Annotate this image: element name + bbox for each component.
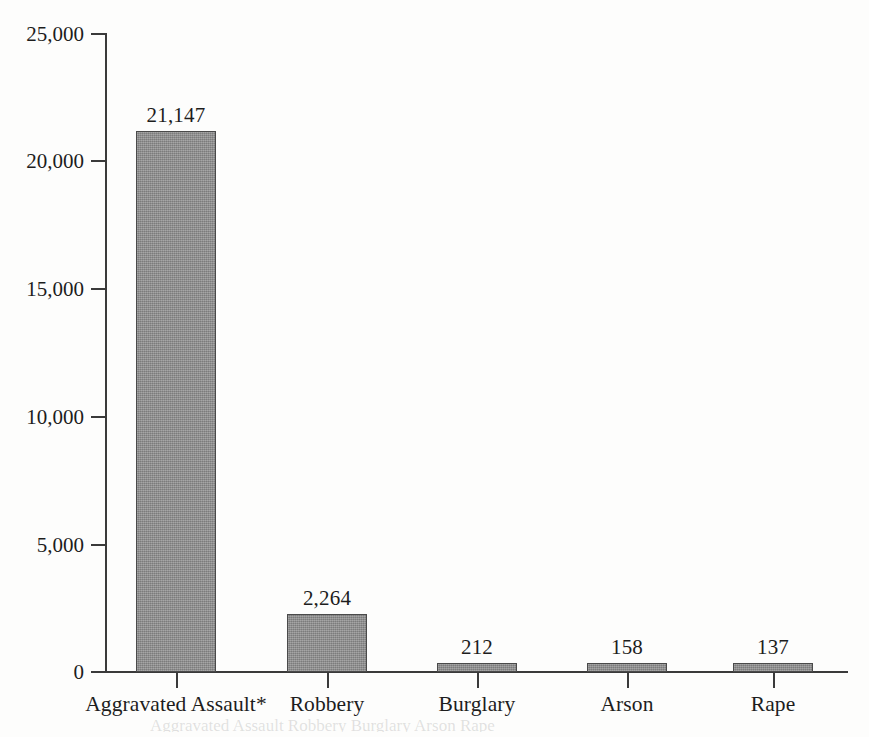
x-axis-tick-arson bbox=[627, 673, 629, 688]
x-axis-tick-burglary bbox=[477, 673, 479, 688]
x-axis-label-burglary: Burglary bbox=[407, 692, 547, 717]
bar-value-arson: 158 bbox=[567, 635, 687, 660]
y-axis-tick-0 bbox=[91, 671, 105, 673]
bar-value-burglary: 212 bbox=[417, 635, 537, 660]
y-axis-tick-label-25000: 25,000 bbox=[0, 22, 84, 47]
y-axis-tick-label-20000: 20,000 bbox=[0, 149, 84, 174]
bar-value-robbery: 2,264 bbox=[267, 586, 387, 611]
bar-arson bbox=[587, 663, 667, 672]
plot-area: 25,000 20,000 15,000 10,000 5,000 0 21,1… bbox=[0, 0, 869, 737]
y-axis-tick-5000 bbox=[91, 544, 105, 546]
x-axis-label-arson: Arson bbox=[557, 692, 697, 717]
y-axis-tick-label-15000: 15,000 bbox=[0, 277, 84, 302]
bar-value-aggravated-assault: 21,147 bbox=[116, 103, 236, 128]
x-axis-tick-robbery bbox=[327, 673, 329, 688]
y-axis-tick-20000 bbox=[91, 160, 105, 162]
y-axis-line bbox=[105, 33, 107, 673]
bar-aggravated-assault bbox=[136, 131, 216, 672]
bar-value-rape: 137 bbox=[713, 635, 833, 660]
bar-rape bbox=[733, 663, 813, 672]
x-axis-label-robbery: Robbery bbox=[257, 692, 397, 717]
y-axis-tick-15000 bbox=[91, 288, 105, 290]
bar-robbery bbox=[287, 614, 367, 672]
y-axis-tick-label-5000: 5,000 bbox=[0, 533, 84, 558]
x-axis-tick-aggravated-assault bbox=[176, 673, 178, 688]
x-axis-label-rape: Rape bbox=[703, 692, 843, 717]
page-bleed-through-text: Aggravated Assault Robbery Burglary Arso… bbox=[150, 716, 710, 732]
y-axis-tick-label-0: 0 bbox=[0, 660, 84, 685]
x-axis-label-aggravated-assault: Aggravated Assault* bbox=[66, 692, 286, 717]
bar-chart-figure: 25,000 20,000 15,000 10,000 5,000 0 21,1… bbox=[0, 0, 869, 737]
y-axis-tick-label-10000: 10,000 bbox=[0, 405, 84, 430]
bar-burglary bbox=[437, 663, 517, 672]
y-axis-tick-10000 bbox=[91, 416, 105, 418]
x-axis-tick-rape bbox=[773, 673, 775, 688]
y-axis-tick-25000 bbox=[91, 33, 105, 35]
